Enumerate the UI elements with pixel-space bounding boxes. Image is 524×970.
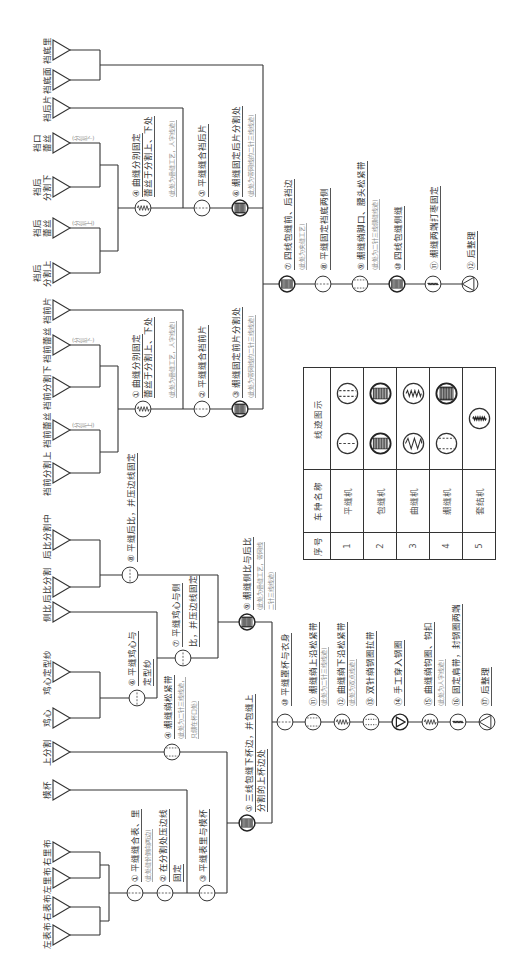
machine-name: 平缝机 xyxy=(331,470,364,533)
step-label: ② 在分割处压边线 xyxy=(159,809,170,882)
step-label: ⑰ 后整理 xyxy=(481,667,492,706)
header-machine-type: 车种名称 xyxy=(304,470,331,533)
legend-header-row: 序号 车种名称 线迹图示 xyxy=(304,368,331,560)
material-input-icon xyxy=(53,133,70,153)
material-input-icon xyxy=(53,742,70,762)
stitch-icons xyxy=(397,368,430,470)
stitch-icons xyxy=(463,368,496,470)
double-needle-icon xyxy=(363,714,379,730)
lockstitch-icon xyxy=(157,885,173,901)
material-note: (分割上) xyxy=(72,422,94,428)
material-note: (分割下) xyxy=(72,337,94,343)
legend-row: 2 包缝机 xyxy=(364,368,397,560)
legend-row: 4 绷缝机 xyxy=(430,368,463,560)
zigzag-stitch-icon xyxy=(135,200,151,216)
machine-name: 曲缝机 xyxy=(397,470,430,533)
step-label: ⑥ 平缝鸡心与 xyxy=(128,631,139,686)
step-note: (此处为叠缝工艺，人字线迹) xyxy=(168,321,177,398)
step-label: 蕾丝于分割上、下处 xyxy=(144,116,155,197)
serial-no: 3 xyxy=(397,533,430,560)
material-input-icon xyxy=(53,925,70,945)
zigzag-stitch-icon xyxy=(402,382,425,405)
machine-name: 套结机 xyxy=(463,470,496,533)
material-input-icon xyxy=(53,335,70,355)
overlock-stitch-icon xyxy=(369,432,392,455)
overlock-stitch-icon xyxy=(279,276,295,292)
step-note: (此处为带网线的二针三线线迹) xyxy=(247,114,256,197)
lockstitch-icon xyxy=(336,432,359,455)
step-label: ⑤ 三线包缝下杯边，并包缝上 xyxy=(245,694,256,812)
material-input-icon xyxy=(53,377,70,397)
step-label: ⑥ 绷缝固定后片分割处 xyxy=(232,106,243,197)
step-label: ⑪ 绷缝绱上沿松紧带 xyxy=(309,622,320,706)
header-stitch-diagram: 线迹图示 xyxy=(304,368,331,470)
stitch-icons xyxy=(430,368,463,470)
machine-name: 包缝机 xyxy=(364,470,397,533)
step-label: 分割的上杯边处 xyxy=(257,749,268,812)
finishing-icon xyxy=(479,714,495,730)
step-label: ③ 平缝表里与模杯 xyxy=(199,809,210,882)
legend-row: 3 曲缝机 xyxy=(397,368,430,560)
coverstitch-icon xyxy=(305,714,321,730)
overlock-stitch-icon xyxy=(389,276,405,292)
step-label: ⑫ 曲缝绱下沿松紧带 xyxy=(337,622,348,706)
lockstitch-cross-icon xyxy=(129,690,145,706)
zigzag-stitch-icon xyxy=(422,714,438,730)
lockstitch-icon xyxy=(277,714,293,730)
step-label: ⑬ 双针绱钢圈拉带 xyxy=(366,631,377,706)
stitch-legend-table: 序号 车种名称 线迹图示 1 平缝机 2 包缝机 3 曲缝机 xyxy=(303,367,496,560)
machine-name: 绷缝机 xyxy=(430,470,463,533)
material-input-icon xyxy=(53,708,70,728)
step-label: ⑩ 四线包缝侧缝 xyxy=(394,206,405,270)
material-input-icon xyxy=(53,897,70,917)
material-label: 右里布 xyxy=(42,822,52,882)
step-label: ⑨ 绷缝侧比与后比 xyxy=(243,537,254,610)
overlock-stitch-icon xyxy=(239,815,255,831)
coverstitch-icon xyxy=(352,276,368,292)
step-note: 二针三线线迹) xyxy=(267,572,276,610)
legend-row: 1 平缝机 xyxy=(331,368,364,560)
material-label: 后比分割中 xyxy=(42,506,52,566)
step-label: ⑧ 平缝后比，并压边线固定 xyxy=(127,453,138,562)
material-input-icon xyxy=(53,463,70,483)
step-label: ⑦ 四线包缝前、后裆边 xyxy=(284,179,295,270)
serial-no: 4 xyxy=(430,533,463,560)
coverstitch-net-icon xyxy=(232,401,248,417)
material-label: 鸡心定型纱 xyxy=(42,642,52,702)
coverstitch-net-icon xyxy=(239,614,255,630)
lockstitch-cross-icon xyxy=(175,650,191,666)
header-serial-no: 序号 xyxy=(304,533,331,560)
step-label: ⑦ 平缝鸡心与侧 xyxy=(172,583,183,647)
overlock-stitch-icon xyxy=(369,382,392,405)
step-note: (此处为二针三线线迹， xyxy=(177,677,186,739)
step-label: ⑪ 绷缝两端打枣固定 xyxy=(430,186,441,270)
step-label: ⑫ 后整理 xyxy=(467,231,478,270)
step-note: (此处为双点线迹) xyxy=(348,659,357,706)
coverstitch-icon xyxy=(435,432,458,455)
coverstitch-net-icon xyxy=(232,200,248,216)
step-label: ④ 绷缝绱松紧带 xyxy=(164,675,175,739)
material-input-icon xyxy=(53,40,70,60)
manual-icon xyxy=(392,714,408,730)
step-label: ① 平缝缝合表、里 xyxy=(131,809,142,882)
serial-no: 2 xyxy=(364,533,397,560)
lockstitch-icon xyxy=(127,885,143,901)
step-note: (此处为夹缝工艺) xyxy=(298,223,307,270)
step-note: (此处为人字线迹) xyxy=(437,659,446,706)
material-input-icon xyxy=(53,868,70,888)
material-input-icon xyxy=(53,530,70,550)
step-label: ⑨ 绷缝绱脚口、腰头松紧带 xyxy=(357,161,368,270)
material-input-icon xyxy=(53,70,70,90)
zigzag-stitch-icon xyxy=(334,714,350,730)
coverstitch-icon xyxy=(164,744,180,760)
bartack-icon xyxy=(450,714,466,730)
serial-no: 1 xyxy=(331,533,364,560)
material-input-icon xyxy=(53,218,70,238)
step-label: ① 曲缝分别固定 xyxy=(132,334,143,398)
step-note: 只绷在杯口处) xyxy=(190,701,199,739)
material-input-icon xyxy=(53,602,70,622)
step-label: 固定 xyxy=(173,864,184,882)
legend-row: 5 套结机 xyxy=(463,368,496,560)
material-input-icon xyxy=(53,780,70,800)
step-label: ③ 绷缝固定前片分割处 xyxy=(232,307,243,398)
